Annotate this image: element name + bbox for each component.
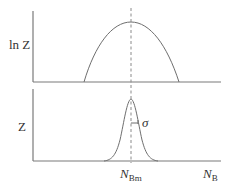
top-panel: ln Z	[9, 11, 221, 82]
ln-z-and-z-diagram: ln Z σ Z NBm NB	[0, 0, 231, 184]
bottom-y-axis-label: Z	[18, 119, 26, 134]
top-y-axis-label: ln Z	[9, 37, 30, 52]
x-axis-label-subscript: B	[212, 173, 218, 183]
bottom-panel: σ Z	[18, 89, 221, 161]
peak-x-label: NBm	[119, 166, 142, 183]
peak-x-label-subscript: Bm	[129, 173, 142, 183]
x-axis-label: NB	[202, 166, 218, 183]
sigma-label: σ	[142, 115, 149, 130]
